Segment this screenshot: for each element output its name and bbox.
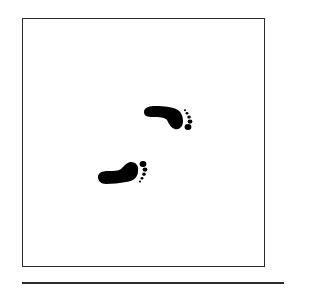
footprint-icon-upper (142, 104, 194, 132)
figure-frame (22, 18, 265, 267)
footprint-icon-lower (96, 159, 150, 187)
baseline-rule (22, 282, 284, 284)
